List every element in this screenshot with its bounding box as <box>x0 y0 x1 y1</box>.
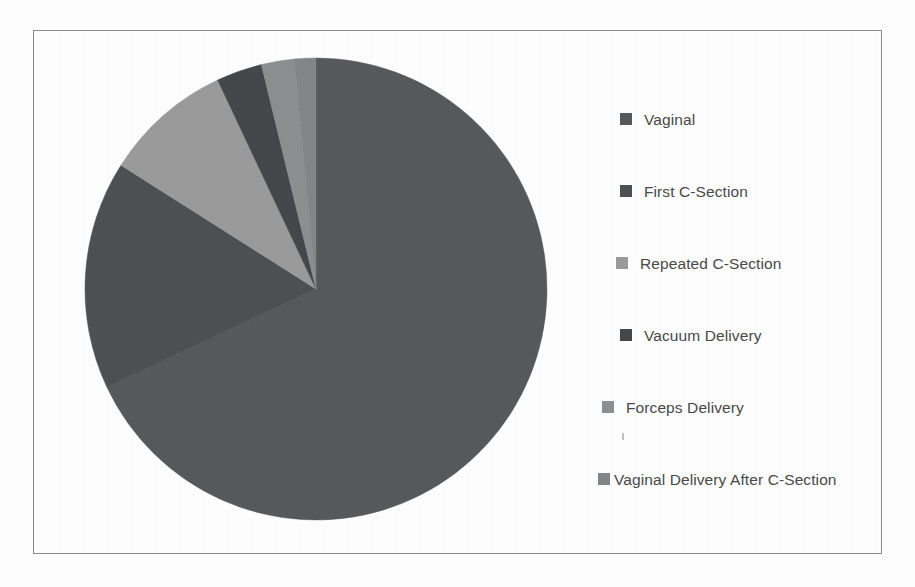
legend-swatch-vacuum-delivery <box>620 329 632 341</box>
legend-label: First C-Section <box>644 181 748 202</box>
legend-swatch-repeated-c-section <box>616 257 628 269</box>
legend-swatch-first-c-section <box>620 185 632 197</box>
pie-chart <box>83 56 549 522</box>
legend-item-vaginal[interactable]: Vaginal <box>594 109 894 130</box>
legend-label: Forceps Delivery <box>626 397 744 418</box>
legend-label: Vaginal <box>644 109 695 130</box>
scan-artifact-speck <box>622 433 624 440</box>
chart-frame: VaginalFirst C-SectionRepeated C-Section… <box>33 30 882 554</box>
pie-slices <box>85 58 547 520</box>
legend-swatch-vaginal <box>620 113 632 125</box>
legend-item-repeated-c-section[interactable]: Repeated C-Section <box>594 253 894 274</box>
legend-item-vacuum-delivery[interactable]: Vacuum Delivery <box>594 325 894 346</box>
legend-swatch-forceps-delivery <box>602 401 614 413</box>
chart-legend: VaginalFirst C-SectionRepeated C-Section… <box>594 65 904 535</box>
legend-item-vaginal-delivery-after-c-section[interactable]: Vaginal Delivery After C-Section <box>594 469 894 490</box>
legend-item-forceps-delivery[interactable]: Forceps Delivery <box>594 397 894 418</box>
legend-swatch-vbac <box>598 473 610 485</box>
pie-svg <box>83 56 549 522</box>
legend-label: Vacuum Delivery <box>644 325 762 346</box>
figure-root: VaginalFirst C-SectionRepeated C-Section… <box>0 0 915 587</box>
legend-label: Vaginal Delivery After C-Section <box>614 469 837 490</box>
legend-label: Repeated C-Section <box>640 253 781 274</box>
legend-item-first-c-section[interactable]: First C-Section <box>594 181 894 202</box>
